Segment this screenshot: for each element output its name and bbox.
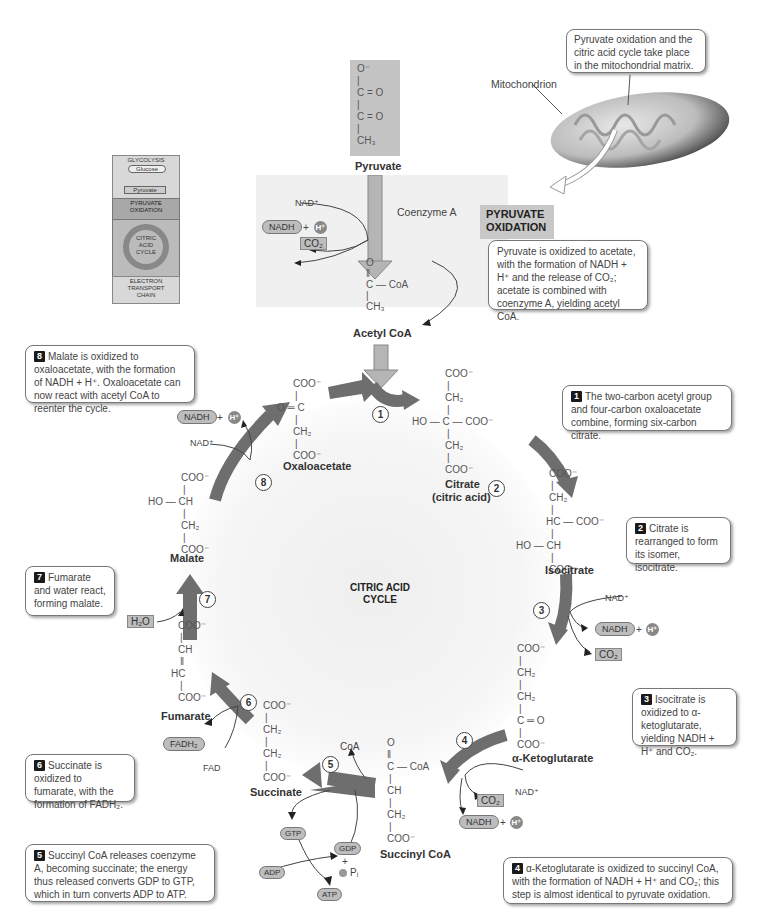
- atom: CH₂: [148, 520, 209, 532]
- callout-step-2: 2Citrate is rearranged to form its isome…: [626, 517, 731, 564]
- bond: |: [517, 679, 545, 691]
- atom: COO⁻: [168, 620, 206, 632]
- atom: HC — COO⁻: [516, 516, 604, 528]
- step-number-3: 3: [533, 602, 550, 619]
- fad-label: FAD: [203, 762, 221, 775]
- fumarate-structure: COO⁻ | CH ‖ HC | COO⁻: [168, 620, 206, 704]
- atom: CH₂: [412, 392, 493, 404]
- atom: CH₂: [263, 748, 291, 760]
- atom: CH₂: [387, 809, 429, 821]
- step-badge: 1: [571, 391, 582, 402]
- succinyl-coa-label: Succinyl CoA: [380, 848, 451, 860]
- fumarate-label: Fumarate: [161, 710, 211, 722]
- bond: |: [516, 480, 604, 492]
- bond: |: [387, 773, 429, 785]
- step-number-4: 4: [456, 732, 473, 749]
- atom: HO — CH: [148, 496, 209, 508]
- bond: |: [148, 532, 209, 544]
- bond: |: [387, 821, 429, 833]
- step-badge: 8: [34, 351, 45, 362]
- callout-step-4: 4α-Ketoglutarate is oxidized to succinyl…: [503, 857, 733, 904]
- plus-sign: +: [500, 816, 506, 829]
- bond: |: [168, 680, 206, 692]
- step4-co2-box: CO₂: [477, 794, 504, 807]
- bond: |: [277, 438, 321, 450]
- step-number-2: 2: [488, 480, 505, 497]
- isocitrate-structure: COO⁻ | CH₂ | HC — COO⁻ | HO — CH | COO⁻: [516, 468, 604, 576]
- atom: COO⁻: [387, 833, 429, 845]
- atom: CH₂: [277, 426, 321, 438]
- atom: CH₂: [517, 667, 545, 679]
- bond: |: [517, 703, 545, 715]
- gdp-badge: GDP: [334, 842, 361, 855]
- atom: O: [387, 737, 429, 749]
- step3-nadh-pill: NADH: [595, 622, 635, 636]
- bond: ‖: [387, 749, 429, 761]
- bond: |: [277, 390, 321, 402]
- bond: |: [168, 632, 206, 644]
- bond: |: [277, 414, 321, 426]
- plus-sign: +: [342, 855, 348, 868]
- alpha-ketoglutarate-label: α-Ketoglutarate: [512, 752, 593, 764]
- step-badge: 4: [512, 863, 523, 874]
- alpha-ketoglutarate-structure: COO⁻ | CH₂ | CH₂ | C ═ O | COO⁻: [517, 643, 545, 751]
- bond: |: [263, 760, 291, 772]
- bond: |: [387, 797, 429, 809]
- atom: HC: [168, 668, 206, 680]
- atom: COO⁻: [412, 368, 493, 380]
- atom: COO⁻: [263, 700, 291, 712]
- bond: |: [412, 428, 493, 440]
- cycle-label-line2: CYCLE: [330, 594, 430, 606]
- atom: COO⁻: [168, 692, 206, 704]
- bond: |: [263, 736, 291, 748]
- atom: HO — CH: [516, 540, 604, 552]
- plus-sign: +: [636, 623, 642, 636]
- step-number-8: 8: [255, 474, 272, 491]
- phosphate-label: Pᵢ: [350, 866, 358, 879]
- atom: CH₂: [517, 691, 545, 703]
- callout-step-3: 3Isocitrate is oxidized to α-ketoglutara…: [632, 688, 737, 746]
- malate-label: Malate: [170, 552, 204, 564]
- atom: CH₂: [412, 440, 493, 452]
- adp-badge: ADP: [259, 866, 285, 879]
- callout-step-5: 5Succinyl CoA releases coenzyme A, becom…: [25, 844, 215, 902]
- succinate-structure: COO⁻ | CH₂ | CH₂ | COO⁻: [263, 700, 291, 784]
- bond: |: [148, 484, 209, 496]
- atom: O ═ C: [277, 402, 321, 414]
- bond: |: [412, 380, 493, 392]
- citric-acid-cycle-label: CITRIC ACID CYCLE: [330, 582, 430, 606]
- atom: COO⁻: [516, 468, 604, 480]
- atom: C ═ O: [517, 715, 545, 727]
- step-number-6: 6: [240, 694, 257, 711]
- atom: CH: [387, 785, 429, 797]
- step8-h-plus-badge: H⁺: [228, 411, 241, 424]
- atom: COO⁻: [517, 739, 545, 751]
- phosphate-dot-icon: [339, 869, 347, 877]
- atp-badge: ATP: [317, 888, 342, 901]
- callout-step-8: 8Malate is oxidized to oxaloacetate, wit…: [25, 345, 195, 403]
- step-badge: 7: [34, 572, 45, 583]
- step3-nad-plus: NAD⁺: [605, 592, 629, 605]
- citrate-sublabel: (citric acid): [432, 491, 491, 503]
- atom: COO⁻: [277, 378, 321, 390]
- bond: |: [412, 452, 493, 464]
- oxaloacetate-structure: COO⁻ | O ═ C | CH₂ | COO⁻: [277, 378, 321, 462]
- bond: |: [412, 404, 493, 416]
- step8-nadh-pill: NADH: [177, 410, 217, 424]
- isocitrate-label: Isocitrate: [545, 564, 594, 576]
- gtp-badge: GTP: [280, 827, 306, 840]
- step4-h-plus-badge: H⁺: [510, 816, 523, 829]
- callout-step-1: 1The two-carbon acetyl group and four-ca…: [562, 385, 732, 431]
- bond: |: [148, 508, 209, 520]
- step3-co2-box: CO₂: [595, 648, 622, 661]
- callout-text: α-Ketoglutarate is oxidized to succinyl …: [512, 863, 719, 900]
- atom: COO⁻: [517, 643, 545, 655]
- atom: C — CoA: [387, 761, 429, 773]
- step-number-5: 5: [322, 756, 339, 773]
- callout-text: Succinate is oxidized to fumarate, with …: [34, 760, 123, 810]
- atom: COO⁻: [412, 464, 493, 476]
- oxaloacetate-label: Oxaloacetate: [283, 460, 351, 472]
- step-badge: 5: [34, 850, 45, 861]
- atom: CH₂: [263, 724, 291, 736]
- bond: |: [516, 528, 604, 540]
